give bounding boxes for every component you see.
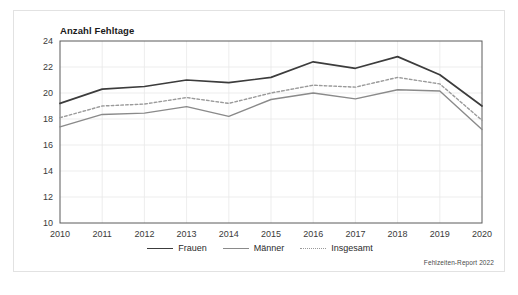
y-axis-tick-label: 24 bbox=[43, 36, 53, 46]
y-axis-tick-label: 14 bbox=[43, 166, 53, 176]
x-axis-tick-label: 2012 bbox=[134, 229, 154, 239]
line-chart: 1012141618202224 20102011201220132014201… bbox=[14, 11, 506, 273]
legend-entry-frauen[interactable]: Frauen bbox=[147, 243, 207, 253]
x-axis-tick-label: 2010 bbox=[50, 229, 70, 239]
x-axis-tick-label: 2016 bbox=[303, 229, 323, 239]
x-axis-tick-label: 2011 bbox=[93, 229, 112, 239]
y-axis-tick-label: 12 bbox=[43, 192, 53, 202]
legend-label: Frauen bbox=[178, 243, 207, 253]
legend-swatch-icon bbox=[147, 248, 173, 249]
legend-swatch-icon bbox=[223, 248, 249, 249]
x-axis-tick-label: 2020 bbox=[472, 229, 492, 239]
x-axis-tick-label: 2014 bbox=[219, 229, 239, 239]
x-axis-tick-label: 2017 bbox=[345, 229, 365, 239]
legend-entry-mnner[interactable]: Männer bbox=[223, 243, 285, 253]
figure-card: Anzahl Fehltage 1012141618202224 2010201… bbox=[13, 10, 505, 272]
x-axis-tick-label: 2013 bbox=[177, 229, 197, 239]
y-axis-tick-label: 10 bbox=[43, 218, 53, 228]
legend-swatch-icon bbox=[300, 248, 326, 249]
chart-legend: FrauenMännerInsgesamt bbox=[14, 243, 506, 253]
x-axis-tick-labels: 2010201120122013201420152016201720182019… bbox=[50, 229, 492, 239]
y-axis-tick-label: 20 bbox=[43, 88, 53, 98]
y-axis-tick-label: 22 bbox=[43, 62, 53, 72]
legend-entry-insgesamt[interactable]: Insgesamt bbox=[300, 243, 373, 253]
gridlines bbox=[60, 41, 482, 223]
plot-area: 1012141618202224 20102011201220132014201… bbox=[14, 11, 506, 273]
y-axis-tick-labels: 1012141618202224 bbox=[43, 36, 53, 228]
x-axis-tick-label: 2018 bbox=[388, 229, 408, 239]
source-note: Fehlzeiten-Report 2022 bbox=[424, 259, 494, 266]
legend-label: Insgesamt bbox=[331, 243, 373, 253]
legend-label: Männer bbox=[254, 243, 285, 253]
x-axis-tick-label: 2019 bbox=[430, 229, 450, 239]
y-axis-tick-label: 16 bbox=[43, 140, 53, 150]
y-axis-tick-label: 18 bbox=[43, 114, 53, 124]
x-axis-tick-label: 2015 bbox=[261, 229, 281, 239]
